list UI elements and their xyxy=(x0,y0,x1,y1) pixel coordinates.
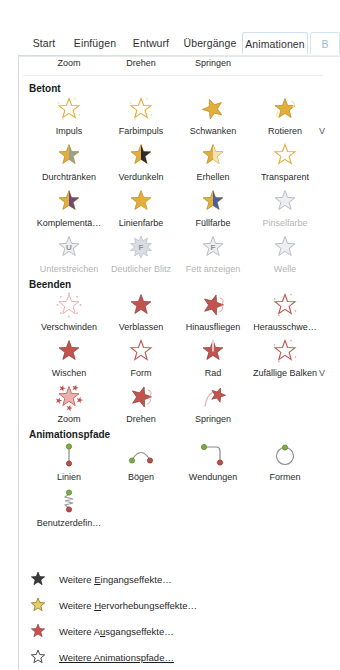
effect-label: Formen xyxy=(249,472,321,483)
ribbon-tab-animationen[interactable]: Animationen xyxy=(242,32,308,54)
menu-item-label: Weitere Eingangseffekte… xyxy=(59,574,172,585)
section-divider xyxy=(23,75,323,76)
star-floatout-exit-icon xyxy=(249,291,321,321)
effect-label: Springen xyxy=(177,414,249,425)
star-spin-icon xyxy=(249,95,321,125)
animation-effects-gallery: ZoomDrehenSpringenBetontImpulsFarbimpuls… xyxy=(18,56,340,670)
effect-schwanken[interactable]: Schwanken xyxy=(177,95,249,137)
effect-deutlicher-blitz: FDeutlicher Blitz xyxy=(105,233,177,275)
path-custom-icon xyxy=(33,487,105,517)
star-boldreveal-icon: F xyxy=(177,233,249,263)
ribbon-tab-b[interactable]: B xyxy=(310,32,340,54)
effect-label: Zoom xyxy=(33,58,105,69)
effect-füllfarbe[interactable]: Füllfarbe xyxy=(177,187,249,229)
effect-label: Hinausfliegen xyxy=(177,322,249,333)
effect-wendungen[interactable]: Wendungen xyxy=(177,441,249,483)
effect-entrance-springen[interactable]: Springen xyxy=(177,57,249,69)
effect-entrance-drehen[interactable]: Drehen xyxy=(105,57,177,69)
effect-unterstreichen: UUnterstreichen xyxy=(33,233,105,275)
effect-impuls[interactable]: Impuls xyxy=(33,95,105,137)
effect-label: Transparent xyxy=(249,172,321,183)
effect-label: Herausschwe… xyxy=(249,322,321,333)
effect-herausschwe-[interactable]: Herausschwe… xyxy=(249,291,321,333)
star-fillcolor-icon xyxy=(177,187,249,217)
effect-label: Farbimpuls xyxy=(105,126,177,137)
effect-durchtränken[interactable]: Durchtränken xyxy=(33,141,105,183)
star-wave-icon xyxy=(249,233,321,263)
effect-fett-anzeigen: FFett anzeigen xyxy=(177,233,249,275)
star-underline-icon: U xyxy=(33,233,105,263)
svg-text:F: F xyxy=(139,243,144,252)
star-exit-red-icon xyxy=(25,622,51,640)
menu-item-usgangseffekte-[interactable]: Weitere Ausgangseffekte… xyxy=(25,620,325,642)
effect-komplementä-[interactable]: Komplementä… xyxy=(33,187,105,229)
star-entrance-dark-icon xyxy=(25,570,51,588)
star-pulse-icon xyxy=(33,95,105,125)
star-linecolor-icon xyxy=(105,187,177,217)
effect-formen[interactable]: Formen xyxy=(249,441,321,483)
effect-label: Komplementä… xyxy=(33,218,105,229)
effect-verschwinden[interactable]: Verschwinden xyxy=(33,291,105,333)
effect-label: Drehen xyxy=(105,414,177,425)
overflow-column-marker: V xyxy=(319,126,325,136)
star-path-outline-icon xyxy=(25,648,51,666)
menu-item-hervorhebungseffekte-[interactable]: Weitere Hervorhebungseffekte… xyxy=(25,594,325,616)
effect-bögen[interactable]: Bögen xyxy=(105,441,177,483)
star-boldflash-icon: F xyxy=(105,233,177,263)
star-brushcolor-icon xyxy=(249,187,321,217)
ribbon-tab-start[interactable]: Start xyxy=(22,32,66,54)
effect-label: Wischen xyxy=(33,368,105,379)
effect-label: Verdunkeln xyxy=(105,172,177,183)
effect-label: Füllfarbe xyxy=(177,218,249,229)
ribbon-tab--berg-nge[interactable]: Übergänge xyxy=(178,32,242,54)
menu-item-eingangseffekte-[interactable]: Weitere Eingangseffekte… xyxy=(25,568,325,590)
star-spin-exit-icon xyxy=(105,383,177,413)
effect-label: Rad xyxy=(177,368,249,379)
effect-label: Rotieren xyxy=(249,126,321,137)
effect-erhellen[interactable]: Erhellen xyxy=(177,141,249,183)
effect-verdunkeln[interactable]: Verdunkeln xyxy=(105,141,177,183)
effect-benutzerdefin-[interactable]: Benutzerdefin… xyxy=(33,487,105,529)
effect-hinausfliegen[interactable]: Hinausfliegen xyxy=(177,291,249,333)
ribbon-tab-entwurf[interactable]: Entwurf xyxy=(124,32,178,54)
effect-label: Welle xyxy=(249,264,321,275)
effect-wischen[interactable]: Wischen xyxy=(33,337,105,379)
effect-label: Durchtränken xyxy=(33,172,105,183)
effect-entrance-zoom[interactable]: Zoom xyxy=(33,57,105,69)
effect-springen[interactable]: Springen xyxy=(177,383,249,425)
effect-linien[interactable]: Linien xyxy=(33,441,105,483)
effect-zufällige-balken[interactable]: Zufällige Balken xyxy=(249,337,321,379)
star-colorpulse-icon xyxy=(105,95,177,125)
menu-item-label: Weitere Ausgangseffekte… xyxy=(59,626,174,637)
effect-label: Zufällige Balken xyxy=(249,368,321,379)
effect-drehen[interactable]: Drehen xyxy=(105,383,177,425)
effect-rad[interactable]: Rad xyxy=(177,337,249,379)
star-fade-exit-icon xyxy=(105,291,177,321)
menu-item-label: Weitere Hervorhebungseffekte… xyxy=(59,600,197,611)
effect-label: Unterstreichen xyxy=(33,264,105,275)
star-desaturate-icon xyxy=(33,141,105,171)
section-header-beenden: Beenden xyxy=(29,279,71,290)
path-turn-icon xyxy=(177,441,249,471)
star-wheel-exit-icon xyxy=(177,337,249,367)
path-shape-icon xyxy=(249,441,321,471)
effect-label: Wendungen xyxy=(177,472,249,483)
effect-verblassen[interactable]: Verblassen xyxy=(105,291,177,333)
star-teeter-icon xyxy=(177,95,249,125)
effect-zoom[interactable]: Zoom xyxy=(33,383,105,425)
ribbon-tab-einf-gen[interactable]: Einfügen xyxy=(66,32,124,54)
effect-transparent[interactable]: Transparent xyxy=(249,141,321,183)
effect-rotieren[interactable]: Rotieren xyxy=(249,95,321,137)
effect-label: Schwanken xyxy=(177,126,249,137)
menu-item-weitere-animationspfade-[interactable]: Weitere Animationspfade… xyxy=(25,646,325,668)
effect-form[interactable]: Form xyxy=(105,337,177,379)
star-zoom-exit-icon xyxy=(33,383,105,413)
star-flyout-exit-icon xyxy=(177,291,249,321)
animations-gallery-window: StartEinfügenEntwurfÜbergängeAnimationen… xyxy=(0,0,340,670)
star-lighten-icon xyxy=(177,141,249,171)
overflow-column-marker: V xyxy=(319,368,325,378)
star-transparency-icon xyxy=(249,141,321,171)
effect-linienfarbe[interactable]: Linienfarbe xyxy=(105,187,177,229)
effect-label: Linien xyxy=(33,472,105,483)
effect-farbimpuls[interactable]: Farbimpuls xyxy=(105,95,177,137)
